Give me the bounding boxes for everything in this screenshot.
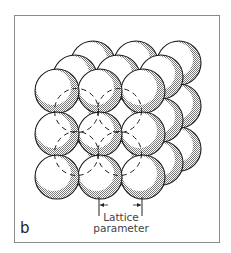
sphere [121, 112, 165, 156]
sphere-group [35, 41, 201, 199]
panel-label: b [20, 221, 30, 236]
sphere [35, 69, 79, 113]
sphere [121, 69, 165, 113]
sphere [78, 155, 122, 199]
sphere [78, 69, 122, 113]
sphere [35, 112, 79, 156]
caption-parameter: parameter [90, 222, 152, 234]
sphere [35, 155, 79, 199]
sphere [121, 155, 165, 199]
sphere [78, 112, 122, 156]
